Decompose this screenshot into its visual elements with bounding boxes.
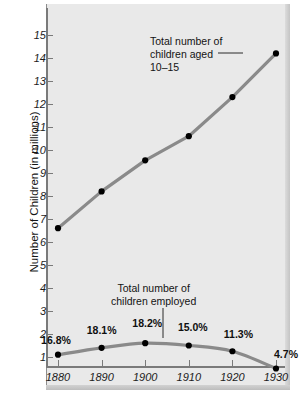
percentage-label: 15.0% bbox=[173, 322, 213, 333]
data-point-marker bbox=[229, 94, 235, 100]
annotation-children-employed: Total number of children employed bbox=[111, 282, 196, 308]
data-point-marker bbox=[142, 340, 148, 346]
percentage-label: 18.1% bbox=[82, 325, 122, 336]
data-point-marker bbox=[55, 225, 61, 231]
annotation-children-aged-line2: children aged bbox=[150, 48, 222, 61]
data-point-marker bbox=[186, 133, 192, 139]
chart-figure: 123456789101112131415 188018901900191019… bbox=[0, 0, 304, 400]
data-point-marker bbox=[99, 345, 105, 351]
line-children-employed bbox=[58, 343, 276, 368]
data-point-marker bbox=[55, 352, 61, 358]
percentage-label: 4.7% bbox=[266, 349, 304, 360]
annotation-children-aged-line3: 10–15 bbox=[150, 61, 222, 74]
data-point-marker bbox=[273, 50, 279, 56]
annotation-children-employed-line2: children employed bbox=[111, 295, 196, 308]
data-point-marker bbox=[229, 348, 235, 354]
percentage-label: 11.3% bbox=[218, 329, 258, 340]
data-point-marker bbox=[186, 342, 192, 348]
line-children-aged bbox=[58, 53, 276, 228]
percentage-label: 16.8% bbox=[36, 335, 76, 346]
data-point-marker bbox=[99, 188, 105, 194]
annotation-children-aged-line1: Total number of bbox=[150, 35, 222, 48]
annotation-children-aged: Total number of children aged 10–15 bbox=[150, 35, 222, 74]
data-point-marker bbox=[142, 157, 148, 163]
annotation-children-employed-line1: Total number of bbox=[111, 282, 196, 295]
data-point-marker bbox=[273, 365, 279, 371]
percentage-label: 18.2% bbox=[127, 318, 167, 329]
